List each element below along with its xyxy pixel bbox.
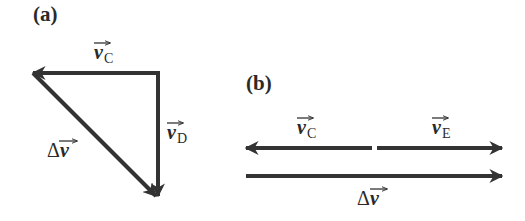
delta-v-arrow-a	[33, 73, 156, 196]
vector-overarrows	[59, 43, 448, 189]
panel-a-label: (a)	[33, 2, 58, 27]
label-vd-a: vD	[167, 121, 187, 147]
label-vc-a: vC	[94, 41, 113, 67]
panel-b-arrows	[246, 148, 502, 176]
label-ve-b: vE	[432, 116, 450, 142]
label-vc-b: vC	[297, 116, 316, 142]
label-delta-v-b: Δv	[357, 187, 379, 210]
panel-a-arrows	[33, 73, 160, 196]
panel-b-label: (b)	[246, 71, 272, 96]
vector-diagram	[0, 0, 525, 221]
label-delta-v-a: Δv	[47, 139, 69, 162]
